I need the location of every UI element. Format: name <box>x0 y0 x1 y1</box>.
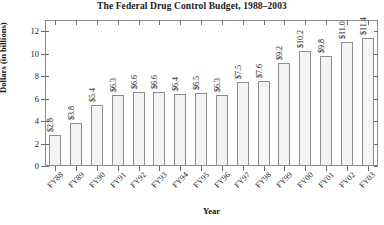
x-axis-tick-label: FY96 <box>213 171 232 190</box>
top-axis-tick <box>76 20 77 25</box>
x-axis-tick <box>159 166 160 171</box>
y-axis-tick-right <box>374 99 378 100</box>
x-axis-tick-label: FY98 <box>255 171 274 190</box>
bar <box>153 92 165 166</box>
top-axis-tick <box>326 20 327 25</box>
x-axis-tick-label: FY88 <box>47 171 66 190</box>
x-axis-tick <box>201 166 202 171</box>
x-axis-tick <box>118 166 119 171</box>
top-axis-tick <box>284 20 285 25</box>
bar-value-label: $9.2 <box>276 46 284 60</box>
chart-title: The Federal Drug Control Budget, 1988–20… <box>0 1 384 11</box>
bar <box>237 82 249 166</box>
x-axis-tick-label: FY92 <box>130 171 149 190</box>
bar <box>91 105 103 166</box>
top-axis-tick <box>139 20 140 25</box>
x-axis-tick-label: FY97 <box>234 171 253 190</box>
top-axis-tick <box>201 20 202 25</box>
x-axis-tick <box>76 166 77 171</box>
y-axis-tick-label: 6 <box>35 94 39 103</box>
top-axis-tick <box>180 20 181 25</box>
top-axis-tick <box>305 20 306 25</box>
bar <box>216 95 228 166</box>
bar-value-label: $9.8 <box>318 39 326 53</box>
x-axis-tick <box>368 166 369 171</box>
top-axis-tick <box>118 20 119 25</box>
bar-value-label: $6.5 <box>193 76 201 90</box>
x-axis-tick <box>284 166 285 171</box>
bar-value-label: $7.6 <box>256 64 264 78</box>
bar <box>133 92 145 166</box>
bar <box>341 42 353 166</box>
bar-chart-figure: The Federal Drug Control Budget, 1988–20… <box>0 0 384 225</box>
x-axis-title: Year <box>45 206 378 216</box>
bar <box>49 135 61 166</box>
bar-value-label: $6.6 <box>131 75 139 89</box>
y-axis-tick-right <box>374 31 378 32</box>
x-axis-tick <box>243 166 244 171</box>
x-axis-tick <box>264 166 265 171</box>
y-axis-tick-right <box>374 76 378 77</box>
x-axis-tick <box>180 166 181 171</box>
x-axis-tick-label: FY93 <box>151 171 170 190</box>
top-axis-tick <box>55 20 56 25</box>
bar-value-label: $5.4 <box>89 88 97 102</box>
x-axis-tick <box>97 166 98 171</box>
bar-value-label: $11.4 <box>360 17 368 35</box>
top-axis-tick <box>159 20 160 25</box>
x-axis-tick-label: FY01 <box>317 171 336 190</box>
bar <box>362 38 374 166</box>
bar <box>299 51 311 166</box>
y-axis-tick-inner <box>45 144 49 145</box>
x-axis-tick <box>139 166 140 171</box>
y-axis-title: Dollars (in billions) <box>0 22 8 93</box>
y-axis-tick-inner <box>45 166 49 167</box>
y-axis-tick-right <box>374 54 378 55</box>
x-axis-tick-label: FY00 <box>296 171 315 190</box>
y-axis-tick-label: 0 <box>35 162 39 171</box>
y-axis-tick-right <box>374 166 378 167</box>
plot-area: 024681012 FY88FY89FY90FY91FY92FY93FY94FY… <box>45 20 378 166</box>
y-axis-tick-label: 12 <box>31 27 40 36</box>
x-axis-tick-label: FY95 <box>192 171 211 190</box>
bar-value-label: $6.3 <box>214 78 222 92</box>
x-axis-tick-label: FY99 <box>275 171 294 190</box>
x-axis-tick <box>222 166 223 171</box>
bar-value-label: $7.5 <box>235 65 243 79</box>
bar-value-label: $6.3 <box>110 78 118 92</box>
x-axis-tick <box>326 166 327 171</box>
x-axis-tick-label: FY91 <box>109 171 128 190</box>
x-axis-tick <box>347 166 348 171</box>
x-axis-tick-label: FY89 <box>67 171 86 190</box>
y-axis-tick-inner <box>45 99 49 100</box>
y-axis-tick-inner <box>45 54 49 55</box>
y-axis-tick-label: 4 <box>35 117 39 126</box>
top-axis-tick <box>243 20 244 25</box>
y-axis-tick-inner <box>45 31 49 32</box>
bar <box>174 94 186 166</box>
y-axis-tick-label: 10 <box>31 49 40 58</box>
x-axis-tick-label: FY03 <box>359 171 378 190</box>
y-axis-tick-right <box>374 121 378 122</box>
bar-value-label: $2.8 <box>47 118 55 132</box>
bar <box>258 81 270 166</box>
x-axis-tick <box>305 166 306 171</box>
bar-value-label: $11.0 <box>339 22 347 40</box>
x-axis-tick-label: FY94 <box>171 171 190 190</box>
bar <box>195 93 207 166</box>
y-axis-tick-label: 8 <box>35 72 39 81</box>
bar-value-label: $6.6 <box>151 75 159 89</box>
bar-value-label: $6.4 <box>172 77 180 91</box>
top-axis-tick <box>97 20 98 25</box>
top-axis-tick <box>222 20 223 25</box>
top-axis-tick <box>264 20 265 25</box>
y-axis-tick-right <box>374 144 378 145</box>
bar-value-label: $10.2 <box>297 30 305 48</box>
bar <box>278 63 290 166</box>
y-axis-tick-inner <box>45 76 49 77</box>
bar-value-label: $3.8 <box>68 106 76 120</box>
x-axis-tick-label: FY02 <box>338 171 357 190</box>
y-axis-tick-label: 2 <box>35 139 39 148</box>
bar <box>70 123 82 166</box>
x-axis-tick <box>55 166 56 171</box>
